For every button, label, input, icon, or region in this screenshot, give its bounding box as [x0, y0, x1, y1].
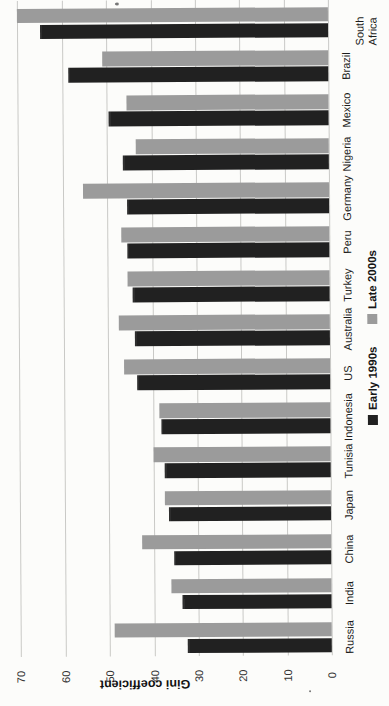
bar-late-brazil [102, 51, 328, 67]
bar-early-australia [135, 330, 330, 346]
country-label-australia: Australia [341, 308, 354, 351]
legend-swatch-early-1990s [367, 415, 377, 425]
bar-late-mexico [127, 95, 329, 111]
country-label-japan: Japan [343, 490, 356, 520]
bar-early-indonesia [162, 418, 331, 434]
bar-late-indonesia [160, 402, 331, 418]
country-label-china: China [343, 535, 356, 564]
bar-late-nigeria [136, 139, 329, 155]
country-label-turkey: Turkey [341, 269, 354, 302]
legend-label-late-2000s: Late 2000s [365, 250, 377, 309]
gridline-50 [106, 1, 111, 657]
country-label-peru: Peru [341, 230, 354, 253]
bar-early-tunisia [164, 462, 330, 478]
tick-label-30: 30 [193, 670, 205, 682]
bar-late-germany [83, 182, 329, 198]
country-label-mexico: Mexico [340, 92, 353, 127]
country-label-russia: Russia [343, 620, 356, 654]
gridlines [0, 0, 387, 1]
bar-late-peru [121, 226, 330, 242]
tick-label-70: 70 [15, 671, 27, 683]
bar-early-peru [127, 242, 329, 258]
value-axis-title: Gini coefficient [100, 677, 190, 692]
bar-late-south-africa [17, 7, 328, 23]
legend-swatch-late-2000s [367, 314, 377, 324]
bar-late-turkey [128, 270, 330, 286]
bar-early-brazil [69, 67, 329, 83]
tick-label-10: 10 [282, 669, 294, 681]
bar-early-china [174, 550, 332, 565]
legend-item-late-2000s: Late 2000s [365, 236, 379, 324]
tick-label-0: 0 [326, 672, 338, 678]
country-label-indonesia: Indonesia [342, 393, 355, 441]
scanned-page: South AfricaBrazilMexicoNigeriaGermanyPe… [0, 0, 389, 706]
legend-item-early-1990s: Early 1990s [365, 337, 379, 425]
bar-late-tunisia [153, 446, 331, 462]
bar-late-china [143, 534, 332, 550]
legend-label-early-1990s: Early 1990s [366, 347, 378, 410]
bar-late-us [124, 358, 330, 374]
country-label-south-africa: South Africa [353, 0, 378, 45]
bar-late-india [172, 578, 332, 593]
country-label-nigeria: Nigeria [340, 136, 353, 171]
country-label-tunisia: Tunisia [342, 444, 355, 479]
bar-early-nigeria [123, 155, 329, 171]
tick-label-60: 60 [60, 671, 72, 683]
tick-label-20: 20 [237, 670, 249, 682]
scan-speck [309, 690, 311, 692]
bar-early-russia [188, 638, 332, 653]
bar-late-australia [119, 314, 330, 330]
bar-early-turkey [132, 286, 329, 302]
bar-early-japan [169, 506, 331, 521]
bar-late-japan [164, 490, 330, 506]
bar-early-germany [127, 198, 329, 214]
country-label-us: US [342, 366, 355, 381]
gridline-60 [62, 1, 67, 657]
bar-late-russia [114, 622, 331, 638]
bar-early-india [183, 594, 332, 609]
country-label-germany: Germany [341, 175, 354, 220]
bar-early-south-africa [40, 23, 328, 39]
country-label-india: India [343, 581, 356, 605]
scan-speck [115, 2, 119, 5]
country-label-brazil: Brazil [340, 52, 353, 80]
bar-early-mexico [109, 111, 329, 127]
gridline-70 [17, 1, 22, 657]
gini-bar-chart: South AfricaBrazilMexicoNigeriaGermanyPe… [0, 0, 389, 706]
bar-early-us [137, 374, 330, 390]
